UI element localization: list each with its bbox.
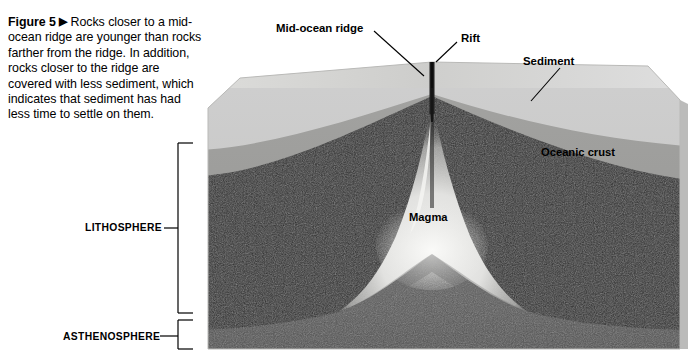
asthenosphere-bracket	[160, 320, 193, 349]
figure-container: Figure 5 ▶ Rocks closer to a mid-ocean r…	[0, 0, 688, 362]
label-asthenosphere: ASTHENOSPHERE	[63, 331, 160, 342]
leader-rift	[436, 42, 457, 62]
label-oceanic-crust: Oceanic crust	[541, 146, 615, 158]
label-mid-ocean-ridge: Mid-ocean ridge	[276, 22, 363, 34]
block-right-face	[680, 100, 688, 349]
label-rift: Rift	[461, 32, 480, 44]
label-magma: Magma	[409, 211, 448, 223]
block-diagram	[0, 0, 688, 362]
lithosphere-bracket	[164, 143, 193, 313]
label-lithosphere: LITHOSPHERE	[85, 222, 162, 233]
rift-slot	[430, 62, 435, 208]
label-sediment: Sediment	[523, 55, 574, 67]
